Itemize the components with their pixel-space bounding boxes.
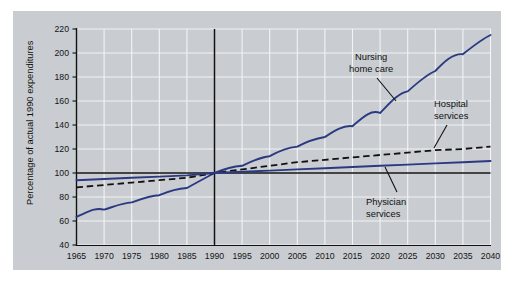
y-tick-label: 180 bbox=[55, 72, 70, 82]
y-tick-label: 200 bbox=[55, 48, 70, 58]
x-tick-label: 2025 bbox=[398, 251, 417, 261]
annotation-line-2: home care bbox=[349, 63, 393, 74]
leader-line-hospital-services bbox=[434, 125, 447, 148]
y-tick-label: 140 bbox=[55, 120, 70, 130]
series-line-nursing-home-care bbox=[77, 35, 491, 217]
x-tick-label: 2020 bbox=[370, 251, 389, 261]
annotation-hospital-services: Hospital services bbox=[434, 98, 469, 121]
annotation-physician-services: Physician services bbox=[366, 196, 406, 219]
y-tick-label: 40 bbox=[59, 240, 69, 250]
annotation-line-1: Hospital bbox=[434, 98, 468, 109]
annotation-line-1: Physician bbox=[366, 196, 406, 207]
series-line-hospital-services bbox=[77, 147, 491, 188]
vertical-gridlines bbox=[77, 29, 491, 245]
x-tick-label: 1980 bbox=[150, 251, 169, 261]
x-tick-labels: 1965 1970 1975 1980 1985 1990 1995 2000 … bbox=[67, 251, 500, 261]
axis-lines bbox=[76, 28, 491, 246]
y-tick-label: 220 bbox=[55, 24, 70, 34]
x-tick-label: 2005 bbox=[288, 251, 307, 261]
y-tick-label: 60 bbox=[59, 216, 69, 226]
annotation-nursing-home-care: Nursing home care bbox=[349, 51, 393, 74]
x-tick-label: 2015 bbox=[343, 251, 362, 261]
y-tick-label: 100 bbox=[55, 168, 70, 178]
x-tick-label: 1970 bbox=[94, 251, 113, 261]
x-tick-label: 2040 bbox=[481, 251, 500, 261]
y-tick-label: 160 bbox=[55, 96, 70, 106]
x-tick-label: 2010 bbox=[315, 251, 334, 261]
x-tick-label: 1990 bbox=[205, 251, 224, 261]
y-axis-title: Percentage of actual 1990 expenditures bbox=[25, 40, 35, 205]
x-tick-label: 2035 bbox=[453, 251, 472, 261]
x-tick-label: 1965 bbox=[67, 251, 86, 261]
line-chart: 220 200 180 160 140 120 100 80 60 40 Per… bbox=[0, 0, 514, 281]
y-tick-label: 120 bbox=[55, 144, 70, 154]
horizontal-gridlines bbox=[77, 29, 491, 245]
annotation-leader-lines bbox=[377, 78, 447, 192]
x-tick-label: 1995 bbox=[232, 251, 251, 261]
x-tick-label: 1975 bbox=[122, 251, 141, 261]
chart-figure: 220 200 180 160 140 120 100 80 60 40 Per… bbox=[0, 0, 514, 281]
annotation-line-2: services bbox=[434, 110, 469, 121]
annotation-line-1: Nursing bbox=[355, 51, 387, 62]
x-tick-label: 1985 bbox=[177, 251, 196, 261]
leader-line-physician-services bbox=[385, 167, 397, 192]
x-tick-label: 2000 bbox=[260, 251, 279, 261]
annotation-line-2: services bbox=[366, 208, 401, 219]
y-tick-label: 80 bbox=[59, 192, 69, 202]
x-tick-label: 2030 bbox=[426, 251, 445, 261]
y-tick-labels: 220 200 180 160 140 120 100 80 60 40 bbox=[55, 24, 70, 250]
